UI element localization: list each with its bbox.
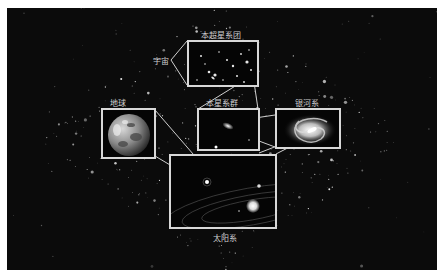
milky-way-image: [277, 110, 341, 149]
diagram-frame: 本超星系团 宇宙 地球: [7, 8, 437, 270]
solar-system-image: [171, 156, 277, 229]
label-universe: 宇宙: [153, 55, 169, 66]
earth-box: [101, 108, 156, 159]
milky-way-box: [275, 108, 341, 149]
label-solar-system: 太阳系: [213, 232, 237, 243]
label-local-group: 本星系群: [206, 97, 238, 108]
earth-image: [103, 110, 156, 159]
label-milky-way: 银河系: [295, 97, 319, 108]
supercluster-box: [187, 40, 259, 87]
supercluster-galaxies: [189, 42, 259, 87]
solar-system-box: [169, 154, 277, 229]
local-group-image: [199, 110, 260, 151]
label-supercluster: 本超星系团: [201, 29, 241, 40]
label-earth: 地球: [110, 97, 126, 108]
local-group-box: [197, 108, 260, 151]
